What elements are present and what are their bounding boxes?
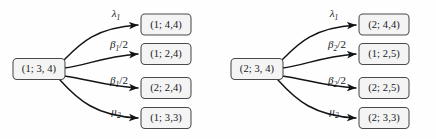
edge-label-right-2: β2/2 bbox=[327, 38, 346, 53]
node-target-left-3[interactable]: (2; 2,4) bbox=[141, 78, 191, 99]
node-source-right[interactable]: (2; 3, 4) bbox=[231, 59, 283, 80]
rate-subscript: 1 bbox=[117, 13, 121, 22]
right-graph: λ1 β2/2 β2/2 μ2 (2; 3, 4) (2; 4,4) (1; 2… bbox=[218, 0, 436, 139]
node-target-right-1[interactable]: (2; 4,4) bbox=[359, 14, 409, 35]
rate-suffix: /2 bbox=[337, 38, 346, 50]
edge-label-left-1: λ1 bbox=[111, 7, 121, 22]
node-target-left-2[interactable]: (1; 2,4) bbox=[141, 44, 191, 65]
edge-right-2 bbox=[282, 54, 356, 68]
figure-root: λ1 β1/2 β1/2 μ2 (1; 3, 4) (1; 4,4) (1; 2… bbox=[0, 0, 436, 139]
node-label: (1; 2,4) bbox=[150, 48, 182, 60]
node-label: (2; 2,5) bbox=[368, 82, 400, 94]
edge-label-left-2: β1/2 bbox=[109, 38, 128, 53]
node-source-left[interactable]: (1; 3, 4) bbox=[13, 59, 65, 80]
edge-left-2 bbox=[64, 54, 138, 68]
rate-suffix: /2 bbox=[119, 38, 128, 50]
node-target-right-2[interactable]: (1; 2,5) bbox=[359, 44, 409, 65]
left-graph: λ1 β1/2 β1/2 μ2 (1; 3, 4) (1; 4,4) (1; 2… bbox=[0, 0, 218, 139]
node-label: (1; 4,4) bbox=[150, 19, 182, 31]
node-label: (1; 2,5) bbox=[368, 48, 400, 60]
rate-suffix: /2 bbox=[119, 74, 128, 86]
rate-subscript: 2 bbox=[335, 111, 339, 120]
node-label: (2; 3,3) bbox=[368, 112, 400, 124]
rate-subscript: 1 bbox=[335, 13, 339, 22]
node-target-right-3[interactable]: (2; 2,5) bbox=[359, 78, 409, 99]
node-label: (2; 4,4) bbox=[368, 19, 400, 31]
node-label: (2; 2,4) bbox=[150, 82, 182, 94]
node-label: (2; 3, 4) bbox=[240, 63, 275, 75]
node-label: (1; 3, 4) bbox=[22, 63, 57, 75]
node-target-left-4[interactable]: (1; 3,3) bbox=[141, 108, 191, 129]
node-target-right-4[interactable]: (2; 3,3) bbox=[359, 108, 409, 129]
rate-subscript: 2 bbox=[117, 111, 121, 120]
rate-suffix: /2 bbox=[337, 74, 346, 86]
edge-label-left-4: μ2 bbox=[110, 105, 121, 120]
edge-label-right-1: λ1 bbox=[329, 7, 339, 22]
node-label: (1; 3,3) bbox=[150, 112, 182, 124]
node-target-left-1[interactable]: (1; 4,4) bbox=[141, 14, 191, 35]
edge-label-right-4: μ2 bbox=[328, 105, 339, 120]
